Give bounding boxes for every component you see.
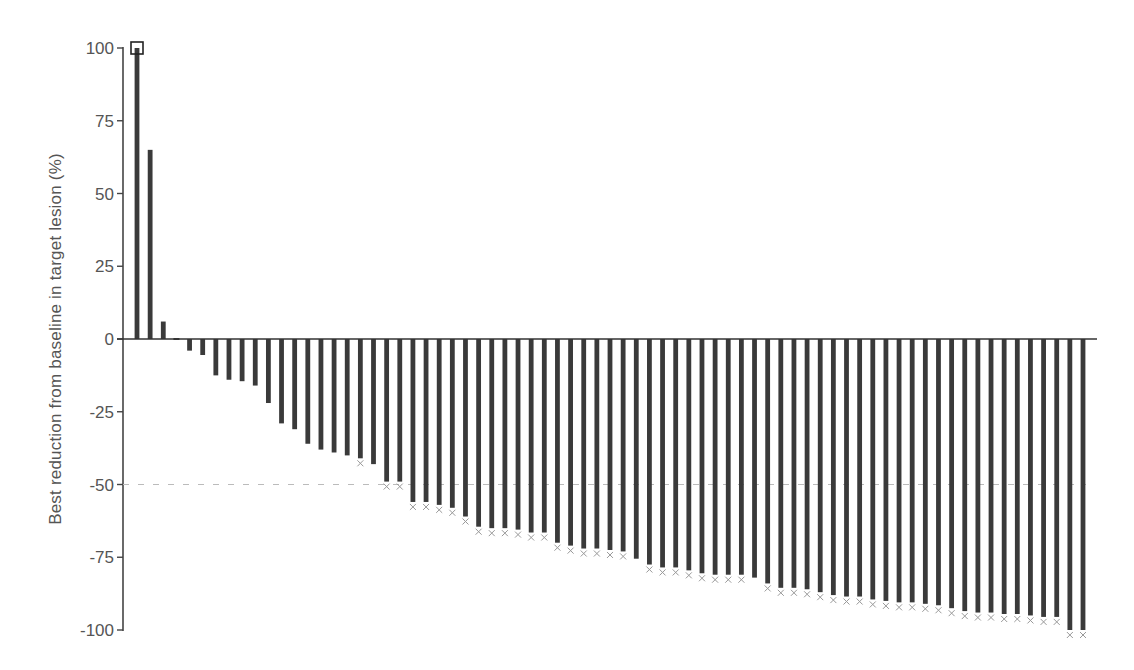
bar bbox=[608, 339, 613, 550]
y-axis-label: Best reduction from baseline in target l… bbox=[46, 153, 66, 525]
cross-marker-icon bbox=[1041, 619, 1047, 625]
cross-marker-icon bbox=[791, 590, 797, 596]
cross-marker-icon bbox=[515, 532, 521, 538]
bar bbox=[870, 339, 875, 599]
cross-marker-icon bbox=[581, 551, 587, 557]
cross-marker-icon bbox=[935, 607, 941, 613]
cross-marker-icon bbox=[607, 552, 613, 558]
bar bbox=[844, 339, 849, 597]
bar bbox=[686, 339, 691, 570]
cross-marker-icon bbox=[725, 577, 731, 583]
bar bbox=[897, 339, 902, 602]
y-tick-label: -75 bbox=[89, 548, 114, 567]
cross-marker-icon bbox=[778, 590, 784, 596]
cross-marker-icon bbox=[673, 569, 679, 575]
cross-marker-icon bbox=[870, 601, 876, 607]
bar bbox=[240, 339, 245, 381]
bar bbox=[266, 339, 271, 403]
cross-marker-icon bbox=[922, 606, 928, 612]
cross-marker-icon bbox=[489, 530, 495, 536]
bar bbox=[634, 339, 639, 559]
cross-marker-icon bbox=[1067, 632, 1073, 638]
bar bbox=[647, 339, 652, 565]
bar bbox=[279, 339, 284, 423]
bar bbox=[332, 339, 337, 452]
bar bbox=[489, 339, 494, 528]
cross-marker-icon bbox=[554, 545, 560, 551]
cross-marker-icon bbox=[857, 599, 863, 605]
bar bbox=[1054, 339, 1059, 617]
cross-marker-icon bbox=[397, 484, 403, 490]
plot-area: 1007550250-25-50-75-100 bbox=[0, 0, 1134, 670]
bar bbox=[1081, 339, 1086, 630]
bar bbox=[292, 339, 297, 429]
y-tick-label: 75 bbox=[95, 112, 114, 131]
cross-marker-icon bbox=[476, 529, 482, 535]
bar bbox=[621, 339, 626, 551]
cross-marker-icon bbox=[909, 604, 915, 610]
bar bbox=[962, 339, 967, 611]
cross-marker-icon bbox=[975, 615, 981, 621]
cross-marker-icon bbox=[1054, 619, 1060, 625]
bar bbox=[568, 339, 573, 546]
cross-marker-icon bbox=[436, 507, 442, 513]
bar bbox=[476, 339, 481, 527]
cross-marker-icon bbox=[962, 613, 968, 619]
bar bbox=[253, 339, 258, 386]
cross-marker-icon bbox=[686, 572, 692, 578]
bar bbox=[778, 339, 783, 588]
bar bbox=[700, 339, 705, 573]
bar bbox=[358, 339, 363, 458]
bar bbox=[542, 339, 547, 533]
bar bbox=[818, 339, 823, 592]
cross-marker-icon bbox=[620, 553, 626, 559]
cross-marker-icon bbox=[541, 535, 547, 541]
bar bbox=[857, 339, 862, 597]
cross-marker-icon bbox=[410, 504, 416, 510]
cross-marker-icon bbox=[528, 535, 534, 541]
bar bbox=[910, 339, 915, 602]
bar bbox=[227, 339, 232, 380]
bar bbox=[450, 339, 455, 508]
bar bbox=[200, 339, 205, 355]
bar bbox=[884, 339, 889, 601]
bar bbox=[1002, 339, 1007, 614]
cross-marker-icon bbox=[1080, 632, 1086, 638]
bar bbox=[805, 339, 810, 589]
bar bbox=[975, 339, 980, 613]
bar bbox=[726, 339, 731, 575]
bar bbox=[1067, 339, 1072, 630]
cross-marker-icon bbox=[660, 569, 666, 575]
y-tick-label: 100 bbox=[86, 39, 114, 58]
y-tick-label: -25 bbox=[89, 403, 114, 422]
y-tick-label: 25 bbox=[95, 257, 114, 276]
cross-marker-icon bbox=[1014, 616, 1020, 622]
cross-marker-icon bbox=[646, 567, 652, 573]
cross-marker-icon bbox=[423, 504, 429, 510]
cross-marker-icon bbox=[1001, 616, 1007, 622]
bar bbox=[384, 339, 389, 482]
cross-marker-icon bbox=[568, 548, 574, 554]
cross-marker-icon bbox=[594, 551, 600, 557]
bar bbox=[581, 339, 586, 549]
cross-marker-icon bbox=[357, 460, 363, 466]
bar bbox=[713, 339, 718, 575]
bar bbox=[437, 339, 442, 505]
bar bbox=[673, 339, 678, 567]
cross-marker-icon bbox=[1027, 617, 1033, 623]
y-tick-label: -50 bbox=[89, 476, 114, 495]
bar bbox=[305, 339, 310, 444]
bar bbox=[1015, 339, 1020, 614]
bar bbox=[1028, 339, 1033, 615]
cross-marker-icon bbox=[738, 577, 744, 583]
cross-marker-icon bbox=[712, 577, 718, 583]
bar bbox=[213, 339, 218, 375]
cross-marker-icon bbox=[449, 510, 455, 516]
bar bbox=[831, 339, 836, 595]
cross-marker-icon bbox=[988, 615, 994, 621]
bar bbox=[135, 48, 140, 339]
bar bbox=[319, 339, 324, 450]
cross-marker-icon bbox=[830, 597, 836, 603]
cross-marker-icon bbox=[699, 575, 705, 581]
bar bbox=[161, 322, 166, 339]
